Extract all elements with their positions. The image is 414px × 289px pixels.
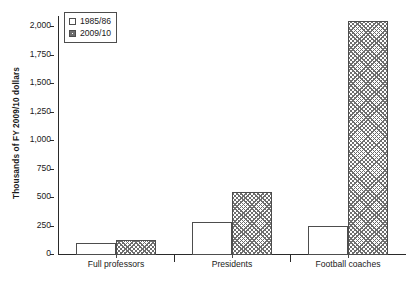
y-tick-label: 1,750	[11, 49, 51, 59]
chart-legend: 1985/86 2009/10	[64, 12, 117, 43]
y-tick-label: 2,000	[11, 20, 51, 30]
bar	[116, 240, 156, 255]
bar-chart: Thousands of FY 2009/10 dollars 02505007…	[0, 0, 414, 289]
y-tick-label: 0	[11, 248, 51, 258]
x-tick-center	[116, 255, 117, 258]
x-tick-boundary	[290, 255, 291, 262]
bar	[348, 21, 388, 255]
y-axis-line	[58, 16, 59, 255]
legend-item-1: 2009/10	[69, 27, 111, 39]
legend-item-0: 1985/86	[69, 15, 111, 27]
y-tick-label: 250	[11, 220, 51, 230]
legend-label-1: 2009/10	[80, 28, 111, 38]
x-axis-label: Football coaches	[316, 259, 381, 269]
x-axis-label: Full professors	[88, 259, 144, 269]
legend-swatch-open-square-icon	[69, 18, 76, 25]
x-tick-center	[348, 255, 349, 258]
y-tick-label: 1,500	[11, 77, 51, 87]
bar	[232, 192, 272, 256]
y-tick-label: 500	[11, 191, 51, 201]
bar	[308, 226, 348, 255]
x-tick-center	[232, 255, 233, 258]
plot-area: 02505007501,0001,2501,5001,7502,000 Full…	[58, 16, 406, 255]
bar	[76, 243, 116, 255]
legend-swatch-hatched-square-icon	[69, 30, 76, 37]
y-tick-label: 1,000	[11, 134, 51, 144]
y-tick-label: 1,250	[11, 106, 51, 116]
y-tick-label: 750	[11, 163, 51, 173]
legend-label-0: 1985/86	[80, 16, 111, 26]
bar	[192, 222, 232, 255]
x-tick-boundary	[174, 255, 175, 262]
x-axis-label: Presidents	[212, 259, 253, 269]
